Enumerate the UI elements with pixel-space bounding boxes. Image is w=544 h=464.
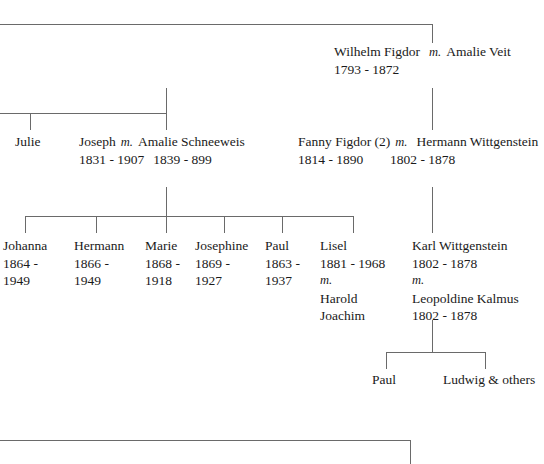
node-child-hermann: Hermann 1866 - 1949 bbox=[74, 237, 124, 290]
node-joseph-name-line: Josephm.Amalie Schneeweis bbox=[79, 133, 245, 151]
connector-to-paul-g4 bbox=[386, 352, 387, 369]
connector-bottom-stem bbox=[410, 440, 411, 464]
johanna-name: Johanna bbox=[3, 237, 47, 255]
connector-g4-horizontal bbox=[386, 352, 486, 353]
node-fanny-name-line: Fanny Figdor (2)m.Hermann Wittgenstein bbox=[298, 133, 538, 151]
node-child-marie: Marie 1868 - 1918 bbox=[145, 237, 180, 290]
karl-dates: 1802 - 1878 bbox=[412, 255, 519, 273]
node-child-lisel: Lisel 1881 - 1968 m.Harold Joachim bbox=[320, 237, 385, 325]
wilhelm-spouse: Amalie Veit bbox=[446, 44, 511, 59]
connector-joseph-stem bbox=[166, 187, 167, 216]
hermann-died: 1949 bbox=[74, 272, 124, 290]
hermann-dates: 1802 - 1878 bbox=[390, 152, 455, 167]
node-fanny-figdor: Fanny Figdor (2)m.Hermann Wittgenstein 1… bbox=[298, 133, 538, 168]
connector-bottom-horizontal bbox=[0, 440, 411, 441]
karl-name: Karl Wittgenstein bbox=[412, 237, 519, 255]
paul-name: Paul bbox=[265, 237, 300, 255]
node-wilhelm-figdor: Wilhelm Figdorm.Amalie Veit 1793 - 1872 bbox=[334, 43, 511, 78]
fanny-dates-line: 1814 - 18901802 - 1878 bbox=[298, 151, 538, 168]
connector-children-horizontal bbox=[25, 216, 354, 217]
lisel-dates: 1881 - 1968 bbox=[320, 255, 385, 273]
karl-spouse: Leopoldine Kalmus bbox=[412, 290, 519, 308]
node-ludwig-wittgenstein: Ludwig & others bbox=[443, 371, 535, 388]
josephine-died: 1927 bbox=[195, 272, 248, 290]
ludwig-g4-name: Ludwig & others bbox=[443, 371, 535, 388]
fanny-dates: 1814 - 1890 bbox=[298, 151, 390, 168]
joseph-spouse-dates: 1839 - 899 bbox=[153, 151, 212, 168]
marriage-mark-wilhelm: m. bbox=[429, 45, 441, 59]
connector-fanny-to-karl bbox=[432, 187, 433, 233]
connector-child-paul bbox=[282, 216, 283, 233]
node-karl-wittgenstein: Karl Wittgenstein 1802 - 1878 m.Leopoldi… bbox=[412, 237, 519, 325]
node-child-paul: Paul 1863 - 1937 bbox=[265, 237, 300, 290]
paul-born: 1863 - bbox=[265, 255, 300, 273]
johanna-died: 1949 bbox=[3, 272, 47, 290]
hermann-name: Hermann bbox=[74, 237, 124, 255]
karl-marriage-line: m.Leopoldine Kalmus bbox=[412, 272, 519, 307]
paul-g4-name: Paul bbox=[372, 371, 396, 388]
hermann-born: 1866 - bbox=[74, 255, 124, 273]
josephine-born: 1869 - bbox=[195, 255, 248, 273]
joseph-spouse: Amalie Schneeweis bbox=[138, 134, 245, 149]
wilhelm-name: Wilhelm Figdor bbox=[334, 44, 420, 59]
karl-spouse-dates: 1802 - 1878 bbox=[412, 307, 519, 325]
connector-top-stem-to-wilhelm bbox=[432, 24, 433, 43]
connector-child-lisel bbox=[353, 216, 354, 233]
wilhelm-dates: 1793 - 1872 bbox=[334, 61, 511, 78]
fanny-spouse: Hermann Wittgenstein bbox=[416, 134, 538, 149]
lisel-marriage-line: m.Harold bbox=[320, 272, 385, 307]
marriage-mark-fanny: m. bbox=[395, 135, 407, 149]
fanny-name: Fanny Figdor (2) bbox=[298, 134, 390, 149]
lisel-name: Lisel bbox=[320, 237, 385, 255]
connector-karl-stem bbox=[432, 320, 433, 353]
marriage-mark-lisel: m. bbox=[320, 272, 385, 290]
marie-died: 1918 bbox=[145, 272, 180, 290]
connector-wilhelm-to-fanny bbox=[432, 88, 433, 130]
johanna-born: 1864 - bbox=[3, 255, 47, 273]
joseph-dates-line: 1831 - 19071839 - 899 bbox=[79, 151, 245, 168]
connector-top-horizontal bbox=[0, 24, 433, 25]
marie-born: 1868 - bbox=[145, 255, 180, 273]
node-child-josephine: Josephine 1869 - 1927 bbox=[195, 237, 248, 290]
connector-wilhelm-stem bbox=[166, 88, 167, 113]
connector-child-hermann bbox=[96, 216, 97, 233]
connector-child-josephine bbox=[224, 216, 225, 233]
node-julie: Julie bbox=[15, 133, 41, 150]
connector-to-joseph bbox=[166, 113, 167, 130]
connector-to-julie bbox=[30, 113, 31, 130]
marriage-mark-joseph: m. bbox=[121, 135, 133, 149]
lisel-spouse-first: Harold bbox=[320, 290, 385, 308]
connector-child-marie bbox=[166, 216, 167, 233]
julie-name: Julie bbox=[15, 133, 41, 150]
node-child-johanna: Johanna 1864 - 1949 bbox=[3, 237, 47, 290]
connector-child-johanna bbox=[25, 216, 26, 233]
family-tree-diagram: Wilhelm Figdorm.Amalie Veit 1793 - 1872 … bbox=[0, 0, 544, 464]
node-wilhelm-name-line: Wilhelm Figdorm.Amalie Veit bbox=[334, 43, 511, 61]
node-joseph: Josephm.Amalie Schneeweis 1831 - 1907183… bbox=[79, 133, 245, 168]
joseph-dates: 1831 - 1907 bbox=[79, 151, 144, 168]
lisel-spouse-last: Joachim bbox=[320, 307, 385, 325]
joseph-name: Joseph bbox=[79, 134, 116, 149]
marie-name: Marie bbox=[145, 237, 180, 255]
connector-g2-horizontal bbox=[0, 113, 167, 114]
node-paul-wittgenstein: Paul bbox=[372, 371, 396, 388]
josephine-name: Josephine bbox=[195, 237, 248, 255]
marriage-mark-karl: m. bbox=[412, 272, 519, 290]
connector-to-ludwig-g4 bbox=[485, 352, 486, 369]
paul-died: 1937 bbox=[265, 272, 300, 290]
